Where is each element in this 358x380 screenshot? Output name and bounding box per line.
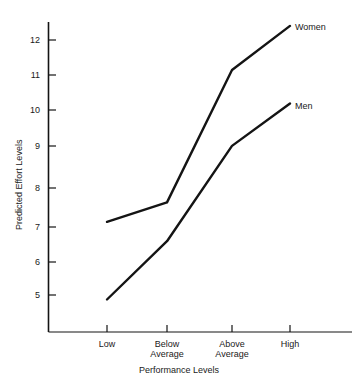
x-axis-ticks	[107, 325, 290, 332]
y-tick-label: 11	[22, 70, 40, 80]
series-label-women: Women	[295, 22, 326, 32]
y-tick-label: 10	[22, 105, 40, 115]
x-tick-label-line1: Above	[219, 339, 245, 349]
x-tick-label-above-average: Above Average	[202, 339, 262, 359]
y-axis-title: Predicted Effort Levels	[14, 140, 24, 230]
x-tick-label-line2: Average	[137, 349, 197, 359]
x-tick-label-line1: Low	[99, 339, 116, 349]
y-tick-label: 12	[22, 35, 40, 45]
y-tick-label: 5	[22, 290, 40, 300]
series-line-men	[107, 104, 290, 300]
x-tick-label-line2: Average	[202, 349, 262, 359]
series-label-men: Men	[295, 101, 313, 111]
x-tick-label-below-average: Below Average	[137, 339, 197, 359]
chart-container: 12 11 10 9 8 7 6 5 Low Below Average Abo…	[0, 0, 358, 380]
x-tick-label-high: High	[260, 339, 320, 349]
x-axis-title: Performance Levels	[0, 365, 358, 375]
y-tick-label: 9	[22, 141, 40, 151]
y-tick-label: 7	[22, 222, 40, 232]
line-chart-plot	[0, 0, 358, 380]
y-axis-ticks	[49, 40, 57, 295]
x-tick-label-low: Low	[77, 339, 137, 349]
y-tick-label: 6	[22, 257, 40, 267]
x-tick-label-line1: High	[281, 339, 300, 349]
x-tick-label-line1: Below	[155, 339, 180, 349]
y-tick-label: 8	[22, 183, 40, 193]
